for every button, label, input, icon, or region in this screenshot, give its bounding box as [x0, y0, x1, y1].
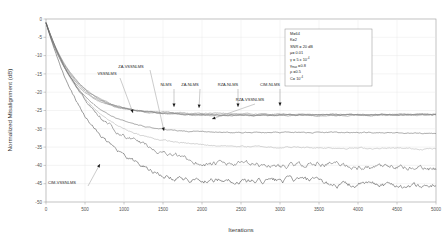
x-tick-label: 5000 [431, 207, 442, 212]
parameter-line: μ= 0.01 [290, 50, 303, 55]
y-axis-label: Normalized Misalignment (dB) [6, 69, 13, 152]
x-tick-label: 0 [45, 207, 48, 212]
x-tick-label: 4000 [353, 207, 364, 212]
y-tick-label: -20 [35, 90, 42, 95]
parameter-line: ρ =0.5 [290, 69, 301, 74]
parameter-line: SNR = 20 dB [290, 44, 313, 49]
x-tick-label: 1500 [158, 207, 169, 212]
x-tick-label: 4500 [392, 207, 403, 212]
y-tick-label: -40 [35, 163, 42, 168]
y-tick-label: 0 [39, 17, 42, 22]
y-tick-label: -35 [35, 145, 42, 150]
x-tick-label: 1000 [119, 207, 130, 212]
x-tick-label: 2500 [236, 207, 247, 212]
y-tick-label: -25 [35, 108, 42, 113]
curve-label-rza-nlms: RZA-NLMS [218, 82, 239, 87]
curve-label-cim-nlms: CIM-NLMS [260, 82, 280, 87]
parameter-line: γ = 5 x 10-4 [290, 56, 310, 62]
x-tick-label: 2000 [197, 207, 208, 212]
x-tick-label: 3000 [275, 207, 286, 212]
x-axis-label: Iterations [228, 226, 253, 233]
parameter-line: K=2 [290, 37, 297, 42]
curve-label-za-vssnlms: ZA-VSSNLMS [118, 64, 144, 69]
chart-root: 0-5-10-15-20-25-30-35-40-45-50 050010001… [0, 0, 448, 242]
x-tick-label: 500 [81, 207, 89, 212]
curve-label-rza-vssnlms: RZA-VSSNLMS [236, 97, 265, 102]
curve-label-vssnlms: VSSNLMS [97, 71, 116, 76]
curve-label-nlms: NLMS [160, 82, 171, 87]
x-tick-label: 3500 [314, 207, 325, 212]
y-tick-label: -30 [35, 127, 42, 132]
convergence-chart: 0-5-10-15-20-25-30-35-40-45-50 050010001… [0, 0, 448, 242]
y-tick-label: -45 [35, 181, 42, 186]
y-tick-label: -50 [35, 200, 42, 205]
curve-label-za-nlms: ZA-NLMS [181, 82, 199, 87]
y-tick-label: -5 [38, 35, 43, 40]
parameter-line: M=64 [290, 31, 301, 36]
y-tick-label: -10 [35, 53, 42, 58]
y-tick-label: -15 [35, 72, 42, 77]
curve-label-cim-vssnlms: CIM-VSSNLMS [48, 180, 76, 185]
